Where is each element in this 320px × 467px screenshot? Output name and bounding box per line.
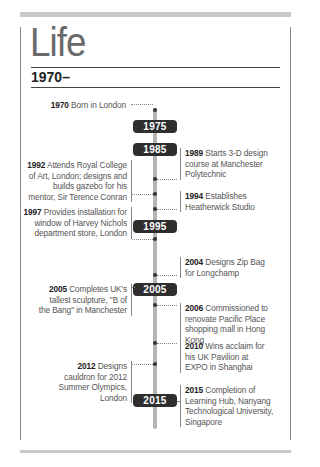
connector-1994	[157, 209, 177, 210]
connector-1989	[157, 179, 177, 180]
event-2012: 2012 Designs cauldron for 2012 Summer Ol…	[45, 361, 132, 403]
event-year: 2010	[185, 341, 203, 351]
header-rule-bottom	[31, 87, 280, 88]
connector-1992	[132, 194, 153, 195]
event-2005: 2005 Completes UK's tallest sculpture, "…	[37, 284, 132, 316]
connector-2015	[177, 401, 179, 402]
event-2015: 2015 Completion of Learning Hub, Nanyang…	[180, 385, 275, 427]
timeline-marker-1992	[153, 192, 157, 196]
decade-pill-2005: 2005	[133, 283, 177, 296]
event-year: 1997	[23, 207, 41, 217]
timeline-marker-1997	[153, 237, 157, 241]
timeline-marker-1970	[153, 108, 157, 112]
event-1970: 1970 Born in London	[51, 100, 131, 111]
connector-1997	[132, 239, 153, 240]
timeline-marker-2012	[153, 362, 157, 366]
event-year: 1992	[27, 160, 45, 170]
event-text: Provides installation for window of Harv…	[34, 207, 127, 238]
event-2010: 2010 Wins acclaim for his UK Pavilion at…	[180, 341, 270, 373]
connector-2012	[132, 364, 153, 365]
right-border	[290, 27, 291, 440]
event-2006: 2006 Commissioned to renovate Pacific Pl…	[180, 303, 283, 345]
decade-pill-1975: 1975	[133, 120, 177, 133]
decade-pill-2015: 2015	[133, 394, 177, 407]
timeline-axis	[153, 108, 157, 429]
connector-2010	[157, 343, 177, 344]
connector-2005	[132, 287, 135, 288]
connector-1970	[131, 104, 153, 105]
event-1994: 1994 Establishes Heatherwick Studio	[180, 191, 275, 212]
page-title: Life	[30, 22, 86, 62]
connector-2006	[157, 305, 177, 306]
event-year: 1994	[185, 191, 203, 201]
connector-2004	[157, 275, 177, 276]
bottom-divider-bar	[20, 450, 291, 453]
event-text: Born in London	[71, 100, 126, 110]
decade-pill-1995: 1995	[133, 220, 177, 233]
event-1989: 1989 Starts 3-D design course at Manches…	[180, 148, 275, 180]
event-year: 2015	[185, 385, 203, 395]
event-year: 2012	[77, 361, 95, 371]
event-year: 2006	[185, 303, 203, 313]
event-1992: 1992 Attends Royal College of Art, Londo…	[25, 160, 132, 202]
top-divider-bar	[20, 12, 291, 17]
era-heading: 1970–	[31, 69, 70, 85]
event-1997: 1997 Provides installation for window of…	[22, 207, 132, 239]
event-2004: 2004 Designs Zip Bag for Longchamp	[180, 257, 275, 278]
event-year: 1989	[185, 148, 203, 158]
event-year: 1970	[51, 100, 69, 110]
left-border	[20, 27, 21, 440]
event-year: 2004	[185, 257, 203, 267]
decade-pill-1985: 1985	[133, 143, 177, 156]
header-rule-top	[31, 67, 280, 68]
event-year: 2005	[49, 284, 67, 294]
